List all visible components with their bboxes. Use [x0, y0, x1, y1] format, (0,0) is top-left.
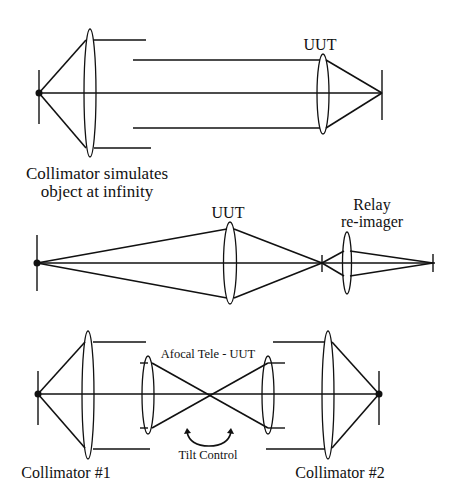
- collimator2-lens: [322, 331, 334, 459]
- tilt-arrow-icon: [184, 428, 234, 446]
- afocal-right-lens: [262, 356, 274, 434]
- collimator-caption-line1: Collimator simulates: [26, 164, 168, 183]
- uut-lens: [317, 54, 329, 134]
- afocal-uut-label: Afocal Tele - UUT: [161, 347, 256, 361]
- uut-focus-ray-upper: [326, 60, 382, 93]
- relay-output-ray-lower: [350, 263, 433, 276]
- collimator1-label: Collimator #1: [21, 464, 110, 481]
- uut-label: UUT: [212, 204, 245, 221]
- relay-output-ray-upper: [350, 251, 433, 263]
- collimator-ray-upper: [39, 40, 86, 93]
- uut-focus-ray-lower: [326, 93, 382, 128]
- collimator1-lens: [82, 331, 94, 459]
- object-ray-upper: [37, 229, 227, 263]
- bottom-configuration: Afocal Tele - UUT Tilt Control Collimato…: [21, 331, 384, 481]
- collimator2-ray-lower: [332, 394, 379, 448]
- afocal-left-lens: [142, 356, 154, 434]
- top-configuration: UUT Collimator simulates object at infin…: [26, 29, 382, 201]
- optical-test-configurations-diagram: UUT Collimator simulates object at infin…: [0, 0, 457, 498]
- object-ray-lower: [37, 263, 227, 298]
- collimator1-ray-lower: [38, 394, 85, 448]
- image-ray-upper: [234, 229, 322, 263]
- relay-label-line1: Relay: [353, 196, 390, 214]
- relay-label-line2: re-imager: [341, 213, 404, 231]
- relay-input-ray-upper: [322, 251, 344, 263]
- tilt-control-label: Tilt Control: [179, 448, 238, 462]
- uut-label: UUT: [304, 36, 337, 53]
- image-ray-lower: [234, 263, 322, 298]
- collimator2-ray-upper: [332, 342, 379, 394]
- collimator-ray-lower: [39, 93, 86, 148]
- collimator2-label: Collimator #2: [295, 464, 384, 481]
- middle-configuration: UUT Relay re-imager: [34, 196, 436, 304]
- collimator-caption-line2: object at infinity: [41, 182, 154, 201]
- relay-input-ray-lower: [322, 263, 344, 276]
- collimator1-ray-upper: [38, 342, 85, 394]
